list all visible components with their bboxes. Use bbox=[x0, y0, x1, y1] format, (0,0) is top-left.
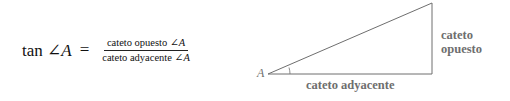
angle-arc-icon bbox=[289, 68, 290, 75]
right-triangle bbox=[268, 3, 432, 74]
opposite-label-line1: cateto bbox=[441, 28, 482, 42]
opposite-side-label: cateto opuesto bbox=[441, 28, 482, 56]
vertex-label-a: A bbox=[257, 66, 264, 81]
right-triangle-diagram bbox=[0, 0, 510, 101]
adjacent-side-label: cateto adyacente bbox=[306, 78, 395, 92]
opposite-label-line2: opuesto bbox=[441, 42, 482, 56]
